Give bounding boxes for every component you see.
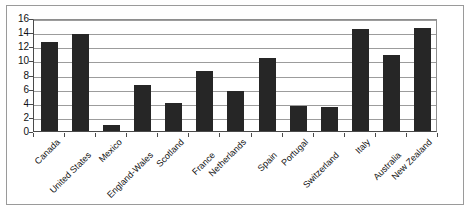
y-axis-tick-mark bbox=[29, 61, 33, 62]
x-axis-category-label: Italy bbox=[354, 137, 373, 156]
y-axis-tick-mark bbox=[29, 90, 33, 91]
y-axis-tick-labels: 0246810121416 bbox=[8, 19, 29, 132]
bar[interactable] bbox=[103, 125, 120, 131]
x-axis-category-label: Portugal bbox=[279, 137, 310, 168]
bar-slot bbox=[220, 20, 251, 131]
y-axis-tick-label: 16 bbox=[18, 14, 29, 24]
plot-area bbox=[33, 19, 437, 132]
bar[interactable] bbox=[321, 107, 338, 131]
y-axis-tick-label: 12 bbox=[18, 42, 29, 52]
y-axis-tick-mark bbox=[29, 33, 33, 34]
bar[interactable] bbox=[165, 103, 182, 131]
bar[interactable] bbox=[41, 42, 58, 131]
bar[interactable] bbox=[134, 85, 151, 131]
bar-slot bbox=[252, 20, 283, 131]
bar-slot bbox=[376, 20, 407, 131]
x-axis-category-label: Canada bbox=[32, 137, 61, 166]
x-axis-category-labels: CanadaUnited StatesMexicoEngland-WalesSc… bbox=[0, 133, 470, 205]
x-axis-category-label: England-Wales bbox=[105, 150, 155, 200]
x-axis-category-label: Mexico bbox=[97, 137, 124, 164]
bar[interactable] bbox=[227, 91, 244, 131]
bar-slot bbox=[189, 20, 220, 131]
bar-slot bbox=[345, 20, 376, 131]
bar-slot bbox=[407, 20, 438, 131]
bar[interactable] bbox=[196, 71, 213, 131]
bar[interactable] bbox=[383, 55, 400, 131]
y-axis-tick-mark bbox=[29, 76, 33, 77]
y-axis-tick-mark bbox=[29, 118, 33, 119]
x-axis-category-label: Switzerland bbox=[301, 150, 341, 190]
y-axis-tick-label: 14 bbox=[18, 28, 29, 38]
x-axis-category-label: Scotland bbox=[154, 137, 186, 169]
y-axis-tick-mark bbox=[29, 132, 33, 133]
bar-slot bbox=[283, 20, 314, 131]
y-axis-tick-mark bbox=[29, 47, 33, 48]
bar-slot bbox=[314, 20, 345, 131]
x-axis-category-label: United States bbox=[47, 150, 92, 195]
y-axis-tick-mark bbox=[29, 19, 33, 20]
bar-slot bbox=[158, 20, 189, 131]
bar-slot bbox=[96, 20, 127, 131]
bar-slot bbox=[127, 20, 158, 131]
bars-layer bbox=[34, 20, 436, 131]
bar[interactable] bbox=[72, 34, 89, 131]
bar[interactable] bbox=[259, 58, 276, 131]
x-axis-category-label: Spain bbox=[256, 150, 279, 173]
bar[interactable] bbox=[290, 106, 307, 131]
bar-slot bbox=[34, 20, 65, 131]
bar[interactable] bbox=[352, 29, 369, 131]
y-axis-tick-label: 10 bbox=[18, 56, 29, 66]
y-axis-tick-mark bbox=[29, 104, 33, 105]
bar-slot bbox=[65, 20, 96, 131]
bar-chart-figure: 0246810121416 CanadaUnited StatesMexicoE… bbox=[0, 0, 470, 213]
bar[interactable] bbox=[414, 28, 431, 131]
